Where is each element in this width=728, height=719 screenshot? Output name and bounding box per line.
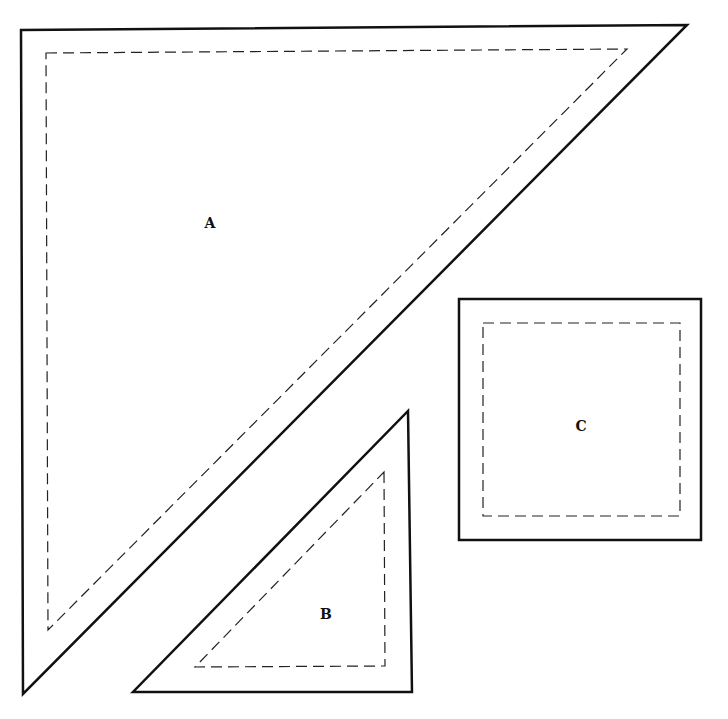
- piece-a-label: A: [204, 215, 217, 231]
- pattern-svg: A B C: [0, 0, 728, 719]
- piece-b-cut-line: [133, 411, 412, 692]
- piece-c: C: [459, 299, 701, 540]
- piece-a-seam-line: [46, 49, 627, 630]
- piece-a: A: [21, 25, 687, 694]
- piece-b: B: [133, 411, 412, 692]
- piece-a-cut-line: [21, 25, 687, 694]
- piece-c-label: C: [575, 418, 586, 434]
- pattern-diagram: A B C: [0, 0, 728, 719]
- piece-b-label: B: [320, 606, 332, 622]
- piece-b-seam-line: [195, 472, 385, 667]
